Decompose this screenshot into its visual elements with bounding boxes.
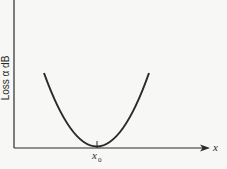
loss-curve (44, 73, 149, 147)
y-axis-label: Loss α dB (0, 55, 11, 100)
minimum-label-subscript: 0 (98, 156, 102, 164)
loss-diagram: Loss α dB x x 0 (0, 0, 227, 169)
x-axis-label: x (212, 141, 218, 153)
minimum-label: x (91, 149, 97, 161)
